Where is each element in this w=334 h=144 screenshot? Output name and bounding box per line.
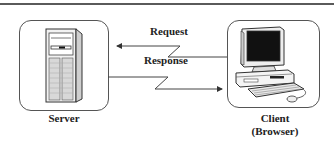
response-arrow bbox=[108, 77, 222, 89]
response-label: Response bbox=[144, 54, 188, 66]
request-label: Request bbox=[150, 25, 188, 37]
flow-arrows bbox=[0, 0, 334, 144]
